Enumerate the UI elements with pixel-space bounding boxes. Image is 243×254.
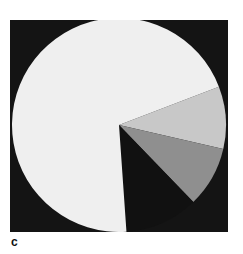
- panel-label: c: [11, 236, 18, 248]
- figure-panel: c: [0, 0, 243, 254]
- chart-frame: [10, 20, 228, 232]
- pie-chart: [10, 20, 228, 232]
